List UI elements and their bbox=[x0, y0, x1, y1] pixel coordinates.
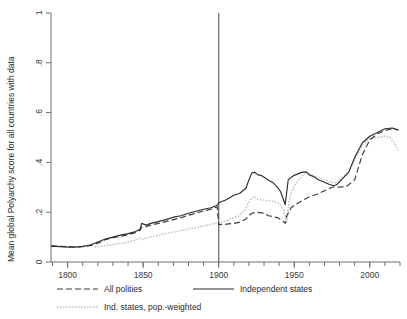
series-line-independent-states bbox=[51, 128, 398, 247]
legend-label-ind-states-pop-weighted: Ind. states, pop.-weighted bbox=[104, 302, 202, 312]
y-tick-label-0.2: .2 bbox=[34, 208, 44, 215]
y-tick-label-0.8: .8 bbox=[34, 59, 44, 66]
y-tick-label-0: 0 bbox=[34, 259, 44, 264]
y-axis-tick-labels: 0 .2 .4 .6 .8 1 bbox=[34, 10, 44, 264]
chart-legend: All polities Independent states Ind. sta… bbox=[57, 284, 312, 312]
polyarchy-line-chart: Mean global Polyarchy score for all coun… bbox=[0, 0, 407, 319]
x-tick-label-1800: 1800 bbox=[58, 270, 77, 280]
y-axis-title: Mean global Polyarchy score for all coun… bbox=[6, 56, 16, 262]
legend-label-independent-states: Independent states bbox=[240, 284, 312, 294]
chart-figure: Mean global Polyarchy score for all coun… bbox=[0, 0, 407, 319]
x-tick-label-2000: 2000 bbox=[360, 270, 379, 280]
x-axis-minor-ticks bbox=[53, 262, 400, 266]
x-tick-label-1900: 1900 bbox=[209, 270, 228, 280]
y-tick-label-1: 1 bbox=[34, 10, 44, 15]
legend-label-all-polities: All polities bbox=[104, 284, 142, 294]
y-tick-label-0.6: .6 bbox=[34, 109, 44, 116]
y-axis-ticks bbox=[46, 13, 51, 262]
x-axis-tick-labels: 18001850190019502000 bbox=[58, 262, 379, 280]
series-line-all-polities bbox=[51, 129, 398, 247]
x-tick-label-1850: 1850 bbox=[134, 270, 153, 280]
x-tick-label-1950: 1950 bbox=[285, 270, 304, 280]
y-tick-label-0.4: .4 bbox=[34, 159, 44, 166]
